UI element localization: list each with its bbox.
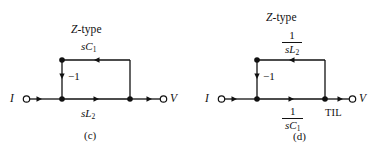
bottom-branch-label-c-text: sL <box>81 107 91 119</box>
output-arrowhead-d <box>338 96 344 101</box>
signal-flow-graph-d: Z-type I V −1 1 sL2 1 sC1 TIL (d) <box>189 0 378 155</box>
input-arrowhead-d <box>232 96 238 101</box>
junction-node-left-d <box>254 96 260 102</box>
top-branch-label-c-text: sC <box>81 40 93 52</box>
input-terminal-label-c: I <box>10 93 14 105</box>
input-arrowhead-c <box>37 96 43 101</box>
junction-node-right-d <box>322 96 328 102</box>
bottom-branch-label-c-sub: 2 <box>91 112 95 121</box>
bottom-branch-numerator-d: 1 <box>282 106 303 118</box>
forward-branch-arrowhead-c <box>94 96 100 101</box>
top-branch-label-d: 1 sL2 <box>282 30 302 55</box>
feedback-gain-label-c: −1 <box>68 71 80 82</box>
figure-caption-c: (c) <box>84 130 96 141</box>
top-branch-arrowhead-c <box>94 57 100 62</box>
feedback-gain-label-d: −1 <box>263 71 275 82</box>
forward-branch-arrowhead-d <box>289 96 295 101</box>
feedback-branch-arrowhead-d <box>254 74 259 80</box>
output-arrowhead-c <box>147 96 153 101</box>
figure-title-c-suffix: -type <box>78 23 102 35</box>
stray-tag-label-d: TIL <box>325 108 342 119</box>
top-branch-denominator-d-sub: 2 <box>295 48 299 57</box>
junction-node-top-left-c <box>59 57 65 63</box>
junction-node-top-left-d <box>254 57 260 63</box>
output-terminal-node-c <box>160 96 166 102</box>
figure-title-d: Z-type <box>266 12 297 24</box>
top-branch-denominator-d-text: sL <box>285 43 295 55</box>
bottom-branch-label-d: 1 sC1 <box>282 106 303 131</box>
feedback-branch-arrowhead-c <box>59 74 64 80</box>
output-terminal-node-d <box>349 96 355 102</box>
input-terminal-label-d: I <box>205 93 209 105</box>
top-branch-label-c-sub: 1 <box>93 45 97 54</box>
bottom-branch-label-c: sL2 <box>81 108 95 119</box>
junction-node-right-c <box>127 96 133 102</box>
top-branch-label-c: sC1 <box>81 41 96 52</box>
signal-flow-graph-c: Z-type I V −1 sC1 sL2 (c) <box>0 0 189 155</box>
figure-title-c: Z-type <box>71 24 102 36</box>
figure-title-d-suffix: -type <box>273 11 297 23</box>
top-branch-arrowhead-d <box>289 57 295 62</box>
top-branch-denominator-d: sL2 <box>282 42 302 55</box>
figure-panel: Z-type I V −1 sC1 sL2 (c) <box>0 0 378 155</box>
output-terminal-label-d: V <box>359 93 366 105</box>
top-branch-numerator-d: 1 <box>282 30 302 42</box>
output-terminal-label-c: V <box>170 93 177 105</box>
input-terminal-node-d <box>218 96 224 102</box>
input-terminal-node-c <box>23 96 29 102</box>
junction-node-left-c <box>59 96 65 102</box>
figure-caption-d: (d) <box>293 131 306 142</box>
